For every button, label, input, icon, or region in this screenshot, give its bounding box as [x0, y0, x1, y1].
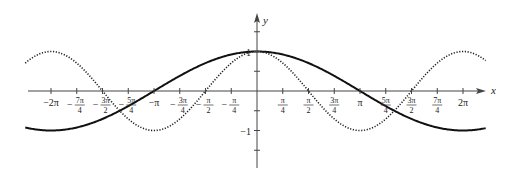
x-tick-fraction-label: 3π4 — [329, 96, 339, 115]
svg-text:5π: 5π — [127, 96, 135, 105]
x-tick-fraction-label: 5π4 — [381, 96, 391, 115]
x-tick-label: 2π — [458, 97, 468, 108]
svg-text:4: 4 — [384, 106, 388, 115]
svg-text:−: − — [93, 99, 99, 110]
x-tick-label: −π — [149, 97, 160, 108]
cosine-chart: −2π−7π4−3π2−5π4−π−3π4−π2−π4π4π23π4π5π43π… — [0, 0, 518, 174]
svg-text:4: 4 — [129, 106, 133, 115]
y-axis-label: y — [262, 14, 268, 26]
svg-text:π: π — [281, 96, 285, 105]
axes — [28, 13, 486, 168]
x-tick-fraction-label: −7π4 — [67, 96, 85, 115]
x-tick-label: −2π — [43, 97, 59, 108]
x-tick-fraction-label: 7π4 — [432, 96, 442, 115]
svg-text:2: 2 — [104, 106, 108, 115]
x-tick-fraction-label: −π4 — [222, 96, 240, 115]
y-tick-label: 1 — [246, 47, 251, 58]
svg-text:2: 2 — [410, 106, 414, 115]
svg-text:π: π — [206, 96, 210, 105]
svg-text:5π: 5π — [382, 96, 390, 105]
x-tick-fraction-label: π4 — [278, 96, 288, 115]
svg-text:π: π — [232, 96, 236, 105]
svg-text:4: 4 — [435, 106, 439, 115]
svg-text:4: 4 — [332, 106, 336, 115]
x-tick-fraction-label: −3π4 — [170, 96, 188, 115]
svg-text:7π: 7π — [433, 96, 441, 105]
svg-text:2: 2 — [207, 106, 211, 115]
x-tick-fraction-label: π2 — [304, 96, 314, 115]
x-tick-fraction-label: 3π2 — [407, 96, 417, 115]
svg-text:−: − — [196, 99, 202, 110]
svg-text:4: 4 — [232, 106, 236, 115]
x-tick-fraction-label: −π2 — [196, 96, 214, 115]
svg-text:3π: 3π — [407, 96, 415, 105]
svg-text:2: 2 — [307, 106, 311, 115]
svg-text:3π: 3π — [179, 96, 187, 105]
svg-text:π: π — [306, 96, 310, 105]
svg-text:4: 4 — [181, 106, 185, 115]
x-axis-label: x — [490, 84, 496, 96]
x-tick-fraction-label: −3π2 — [93, 96, 111, 115]
y-tick-label: −1 — [240, 126, 251, 137]
svg-text:4: 4 — [78, 106, 82, 115]
svg-text:−: − — [67, 99, 73, 110]
svg-text:4: 4 — [281, 106, 285, 115]
svg-text:−: − — [119, 99, 125, 110]
svg-text:−: − — [222, 99, 228, 110]
svg-text:3π: 3π — [330, 96, 338, 105]
svg-text:7π: 7π — [76, 96, 84, 105]
svg-text:3π: 3π — [101, 96, 109, 105]
svg-text:−: − — [170, 99, 176, 110]
x-tick-label: π — [357, 97, 362, 108]
